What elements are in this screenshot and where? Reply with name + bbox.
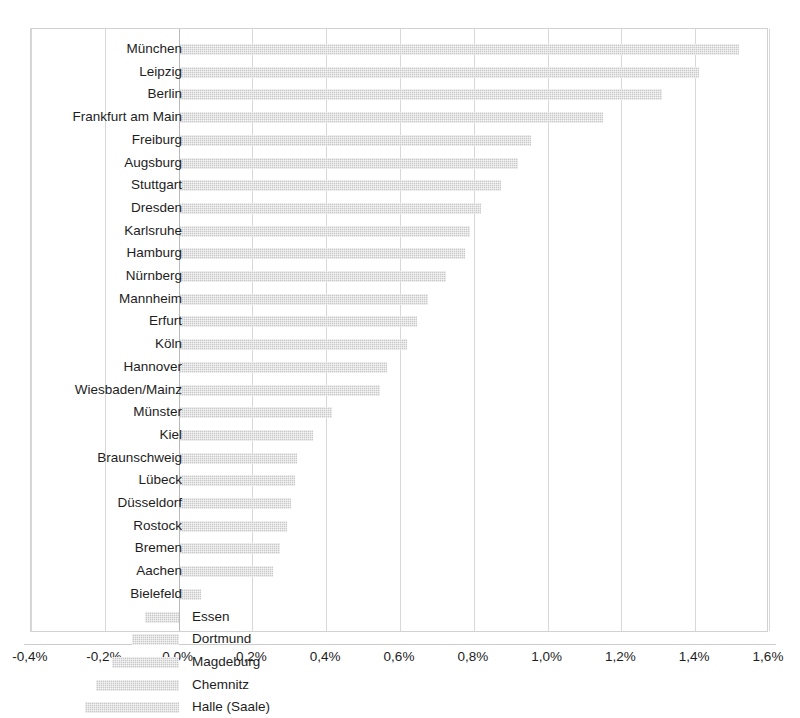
bar[interactable] [179, 226, 471, 237]
category-label: Halle (Saale) [192, 696, 270, 718]
bar[interactable] [179, 566, 273, 577]
category-label: Karlsruhe [124, 220, 182, 243]
category-label: Köln [155, 333, 182, 356]
category-label: München [126, 38, 182, 61]
category-label: Dortmund [192, 628, 251, 651]
bar[interactable] [179, 316, 417, 327]
bar[interactable] [179, 248, 465, 259]
category-label: Stuttgart [131, 174, 182, 197]
bar[interactable] [179, 385, 380, 396]
bar-row [31, 425, 767, 448]
bar[interactable] [179, 67, 699, 78]
bar[interactable] [179, 430, 314, 441]
bar[interactable] [179, 203, 482, 214]
bar[interactable] [179, 180, 502, 191]
category-label: Kiel [159, 424, 182, 447]
bar[interactable] [179, 271, 447, 282]
gridline-10 [769, 29, 770, 631]
bar-row [31, 334, 767, 357]
category-label: Nürnberg [126, 265, 182, 288]
bar[interactable] [96, 680, 179, 691]
category-label: Düsseldorf [117, 492, 182, 515]
bar-row [31, 607, 767, 630]
category-label: Dresden [131, 197, 182, 220]
category-label: Aachen [136, 560, 182, 583]
category-label: Essen [192, 606, 230, 629]
category-label: Erfurt [149, 310, 182, 333]
bar[interactable] [179, 294, 428, 305]
category-label: Chemnitz [192, 674, 249, 697]
bar[interactable] [179, 498, 292, 509]
category-label: Bielefeld [130, 583, 182, 606]
category-label: Hamburg [126, 242, 182, 265]
bar[interactable] [85, 702, 179, 713]
category-label: Münster [133, 401, 182, 424]
bar-row [31, 652, 767, 675]
category-label: Leipzig [139, 61, 182, 84]
bar-row [31, 697, 767, 718]
bar[interactable] [179, 44, 740, 55]
bar-row [31, 84, 767, 107]
bar[interactable] [179, 112, 603, 123]
bar-row [31, 629, 767, 652]
category-label: Wiesbaden/Mainz [75, 379, 182, 402]
bar[interactable] [112, 657, 178, 668]
bar[interactable] [145, 612, 178, 623]
bar[interactable] [179, 339, 408, 350]
category-label: Braunschweig [97, 447, 182, 470]
bar[interactable] [179, 158, 518, 169]
bar[interactable] [179, 89, 662, 100]
category-label: Hannover [123, 356, 182, 379]
bar[interactable] [179, 521, 288, 532]
category-label: Rostock [133, 515, 182, 538]
category-label: Freiburg [132, 129, 182, 152]
bar[interactable] [179, 135, 531, 146]
bar[interactable] [179, 362, 387, 373]
category-label: Mannheim [119, 288, 182, 311]
bar-row [31, 311, 767, 334]
category-label: Bremen [135, 537, 182, 560]
category-label: Frankfurt am Main [72, 106, 182, 129]
bar[interactable] [132, 634, 178, 645]
category-label: Lübeck [138, 469, 182, 492]
category-label: Berlin [147, 83, 182, 106]
bar[interactable] [179, 543, 280, 554]
category-label: Augsburg [124, 152, 182, 175]
bar[interactable] [179, 407, 332, 418]
bar[interactable] [179, 453, 297, 464]
bar[interactable] [179, 475, 295, 486]
bar-row [31, 675, 767, 698]
category-label: Magdeburg [192, 651, 260, 674]
